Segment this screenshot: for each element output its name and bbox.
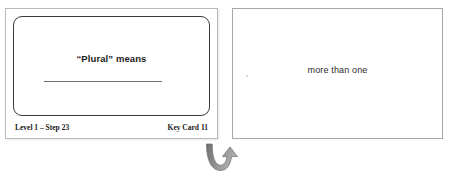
question-card[interactable]: “Plural” means Level 1 – Step 23 Key Car… <box>5 8 218 139</box>
footer-level-step-label: Level 1 – Step 23 <box>15 123 69 132</box>
curved-flip-arrow-icon <box>200 142 248 178</box>
answer-blank-line <box>44 81 162 82</box>
question-prompt-text: “Plural” means <box>14 53 209 64</box>
answer-text: more than one <box>233 65 442 75</box>
scan-artifact-speck <box>246 75 248 77</box>
flashcard-scan-area: “Plural” means Level 1 – Step 23 Key Car… <box>0 0 451 179</box>
question-card-inner-frame: “Plural” means <box>13 16 210 116</box>
footer-key-card-label: Key Card 11 <box>168 123 208 132</box>
question-card-footer: Level 1 – Step 23 Key Card 11 <box>15 121 208 134</box>
answer-card[interactable]: more than one <box>232 8 443 139</box>
